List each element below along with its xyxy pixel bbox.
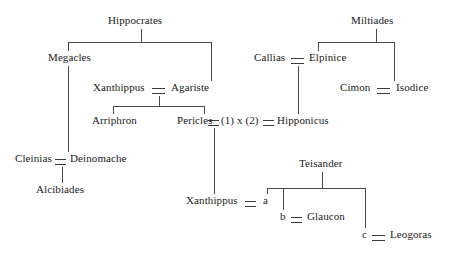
person-xanthippus-younger: Xanthippus — [186, 194, 238, 207]
person-isodice: Isodice — [396, 81, 428, 94]
marriage-cleinias-deinomache — [55, 159, 66, 165]
connector-to-megacles — [68, 42, 69, 51]
connector-megacles-to-deinomache — [68, 66, 69, 152]
person-elpinice: Elpinice — [309, 51, 346, 64]
person-hippocrates: Hippocrates — [108, 14, 162, 27]
marriage-xanthippus-younger-a — [245, 201, 256, 207]
person-leogoras: Leogoras — [390, 228, 432, 241]
marriage-pericles-wife1 — [208, 120, 219, 126]
connector-cleinias-to-alcibiades — [62, 167, 63, 183]
marriage-note: (1) x (2) — [221, 114, 259, 127]
marriage-c-leogoras — [372, 235, 385, 241]
connector-xanthippus-agariste-stem — [159, 96, 160, 106]
connector-miltiades-stem — [376, 29, 377, 42]
person-deinomache: Deinomache — [70, 152, 127, 165]
person-hipponicus: Hipponicus — [277, 114, 329, 127]
person-megacles: Megacles — [48, 51, 91, 64]
person-alcibiades: Alcibiades — [36, 183, 84, 196]
family-tree-diagram: Hippocrates Megacles Xanthippus Agariste… — [0, 0, 450, 255]
marriage-callias-elpinice — [291, 58, 304, 64]
person-callias: Callias — [254, 51, 285, 64]
person-teisander: Teisander — [299, 157, 343, 170]
connector-hippocrates-children-bar — [68, 42, 211, 43]
person-arriphron: Arriphron — [92, 114, 137, 127]
marriage-wife2-hipponicus — [263, 120, 274, 126]
connector-to-child-c — [365, 188, 366, 228]
person-agariste: Agariste — [171, 81, 209, 94]
marriage-b-glaucon — [291, 217, 302, 223]
connector-to-child-b — [283, 188, 284, 210]
connector-pericles-to-xanthippus-younger — [214, 128, 215, 194]
connector-callias-to-hipponicus — [298, 66, 299, 114]
connector-to-agariste — [211, 42, 212, 81]
person-glaucon: Glaucon — [307, 210, 345, 223]
connector-to-cimon — [394, 42, 395, 81]
connector-to-arriphron — [113, 106, 114, 114]
connector-to-elpinice — [318, 42, 319, 51]
connector-miltiades-children-bar — [318, 42, 394, 43]
connector-to-pericles — [204, 106, 205, 114]
person-miltiades: Miltiades — [351, 14, 393, 27]
person-xanthippus-elder: Xanthippus — [93, 81, 145, 94]
connector-teisander-stem — [322, 172, 323, 188]
marriage-cimon-isodice — [377, 88, 390, 94]
person-child-a: a — [263, 194, 268, 207]
connector-teisander-children-bar — [267, 188, 365, 189]
person-child-b: b — [280, 210, 286, 223]
person-child-c: c — [362, 228, 367, 241]
connector-hippocrates-stem — [141, 29, 142, 42]
marriage-xanthippus-agariste — [152, 88, 165, 94]
person-cimon: Cimon — [340, 81, 370, 94]
person-cleinias: Cleinias — [15, 152, 52, 165]
connector-xanthippus-children-bar — [113, 106, 204, 107]
